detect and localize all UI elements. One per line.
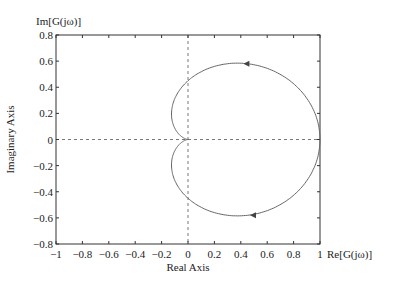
y-tick-label: 0 [48,134,54,146]
x-tick-label: −0.4 [125,248,145,260]
x-tick-label: 0.8 [287,248,301,260]
x-tick-label: 0 [185,248,191,260]
x-tick-label: −0.8 [72,248,92,260]
y-tick-label: −0.8 [33,238,53,250]
x-tick-label: 0.4 [234,248,248,260]
y-tick-label: 0.6 [39,55,53,67]
y-tick-label: −0.6 [33,212,53,224]
x-tick-label: 0.2 [208,248,222,260]
x-tick-label: −0.6 [99,248,119,260]
direction-arrow [243,61,249,67]
x-axis-end-label: Re[G(jω)] [327,248,372,261]
nyquist-chart: −1−0.8−0.6−0.4−0.200.20.40.60.81−0.8−0.6… [0,0,397,284]
direction-arrow [250,212,256,218]
y-axis-label: Imaginary Axis [4,105,16,173]
x-tick-label: 1 [317,248,323,260]
y-tick-label: 0.8 [39,29,53,41]
y-tick-label: 0.2 [39,107,53,119]
x-tick-label: −0.2 [152,248,172,260]
x-tick-label: 0.6 [260,248,274,260]
x-axis-label: Real Axis [166,261,209,273]
y-tick-label: −0.4 [33,186,53,198]
y-axis-top-label: Im[G(jω)] [36,15,81,28]
y-tick-label: 0.4 [39,81,53,93]
y-tick-label: −0.2 [33,160,53,172]
